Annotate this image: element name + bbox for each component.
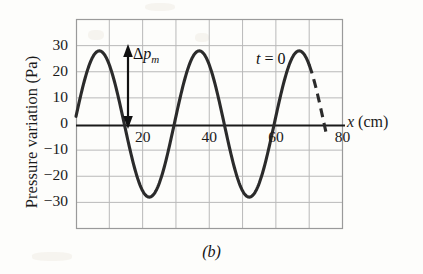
y-tick-label: 0 bbox=[26, 114, 68, 132]
amplitude-annotation: Δpm bbox=[133, 45, 159, 65]
y-tick-label: 10 bbox=[26, 88, 68, 106]
delta-symbol: Δ bbox=[133, 45, 143, 62]
amplitude-arrow-icon bbox=[123, 44, 133, 129]
x-tick-label: 80 bbox=[323, 128, 363, 146]
figure-panel: Pressure variation (Pa) x (cm) 3020100−1… bbox=[0, 0, 423, 274]
time-annotation-rest: = 0 bbox=[260, 50, 285, 67]
y-tick-label: −30 bbox=[26, 192, 68, 210]
y-tick-label: −20 bbox=[26, 166, 68, 184]
figure-caption: (b) bbox=[0, 243, 423, 261]
time-annotation: t = 0 bbox=[256, 50, 285, 68]
x-tick-label: 20 bbox=[123, 128, 163, 146]
pressure-wave-curve bbox=[76, 51, 309, 197]
x-axis-title-unit: (cm) bbox=[358, 113, 388, 130]
y-tick-label: −10 bbox=[26, 140, 68, 158]
x-tick-label: 60 bbox=[256, 128, 296, 146]
y-tick-labels: 3020100−10−20−30 bbox=[26, 0, 68, 274]
x-tick-label: 40 bbox=[189, 128, 229, 146]
y-tick-label: 20 bbox=[26, 62, 68, 80]
p-subscript: m bbox=[151, 53, 159, 65]
y-tick-label: 30 bbox=[26, 36, 68, 54]
